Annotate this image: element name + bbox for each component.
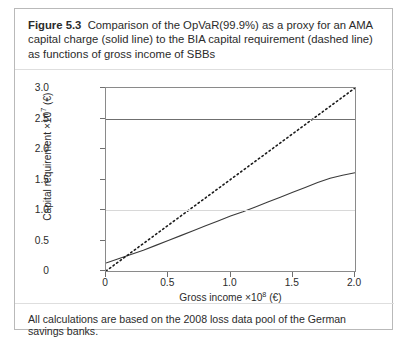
y-tick-label: 0.5	[9, 234, 49, 245]
x-tick-label: 1.5	[272, 277, 312, 288]
y-tick-label: 0	[9, 265, 49, 276]
y-tick-mark	[100, 270, 105, 271]
figure-number: Figure 5.3	[28, 19, 81, 31]
x-axis-label-unit: (€)	[269, 292, 281, 303]
x-tick-label: 2.0	[334, 277, 374, 288]
y-tick-label: 1.5	[9, 173, 49, 184]
y-tick-mark	[100, 240, 105, 241]
figure-footnote: All calculations are based on the 2008 l…	[15, 304, 394, 337]
x-axis-label-text: Gross income	[179, 292, 242, 303]
y-tick-label: 3.0	[9, 82, 49, 93]
figure-container: Figure 5.3 Comparison of the OpVaR(99.9%…	[14, 8, 393, 330]
chart-curves	[106, 88, 355, 271]
y-tick-label: 2.0	[9, 143, 49, 154]
y-tick-mark	[100, 118, 105, 119]
x-axis-label-exponent: 8	[262, 290, 266, 299]
x-tick-mark	[105, 272, 106, 277]
figure-caption: Figure 5.3 Comparison of the OpVaR(99.9%…	[15, 9, 394, 67]
x-tick-mark	[167, 272, 168, 277]
gridline-y	[106, 210, 355, 211]
y-tick-mark	[100, 209, 105, 210]
y-axis-label-unit: (€)	[42, 93, 53, 105]
x-tick-mark	[230, 272, 231, 277]
y-tick-mark	[100, 87, 105, 88]
x-tick-label: 1.0	[210, 277, 250, 288]
series-line-ama-solid	[106, 173, 355, 263]
y-tick-label: 2.5	[9, 112, 49, 123]
x-tick-label: 0	[85, 277, 125, 288]
x-axis-label: Gross income ×108 (€)	[105, 290, 356, 303]
plot-area	[105, 87, 356, 272]
gridline-y	[106, 119, 355, 120]
x-tick-label: 0.5	[147, 277, 187, 288]
y-tick-label: 1.0	[9, 204, 49, 215]
y-tick-mark	[100, 148, 105, 149]
series-line-bia-dashed	[106, 88, 355, 271]
y-tick-mark	[100, 179, 105, 180]
chart-region: Capital requirement ×107 (€) 00.51.01.52…	[15, 70, 394, 303]
x-axis-label-mult: ×10	[245, 292, 262, 303]
x-tick-mark	[292, 272, 293, 277]
x-tick-mark	[354, 272, 355, 277]
